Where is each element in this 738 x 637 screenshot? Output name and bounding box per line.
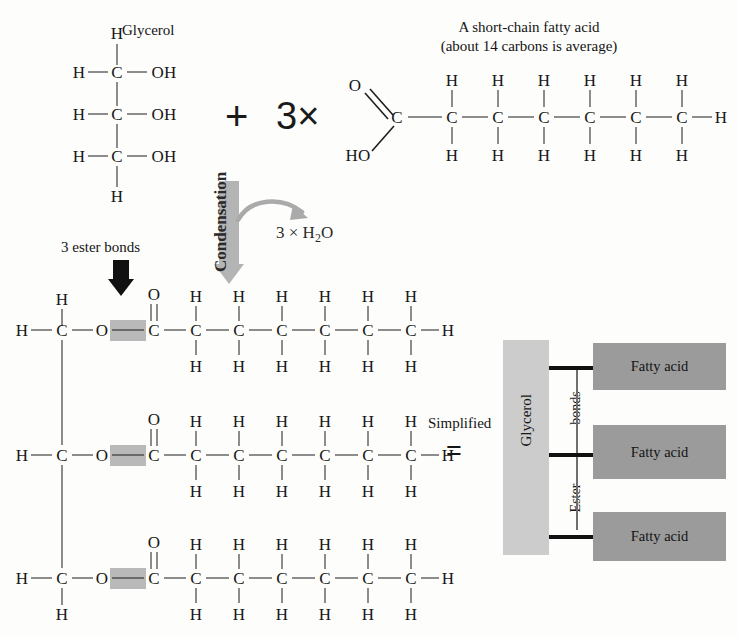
tg1-bond-down-6 [411, 340, 412, 355]
tg2-carbonyl-carbon: C [148, 447, 160, 464]
tg2-lower-h-3: H [276, 483, 288, 500]
tg3-upper-h-5: H [362, 536, 374, 553]
tg2-carbon-2: C [233, 447, 245, 464]
fatty-acid-carbon-2: C [492, 109, 504, 126]
tg1-lower-h-4: H [319, 358, 331, 375]
tg3-carbon-5: C [362, 570, 374, 587]
tg1-bond-down-1 [196, 340, 197, 355]
fatty-acid-title-line1: A short-chain fatty acid [394, 18, 664, 37]
tg3-bond-carbonyl-c1 [164, 578, 186, 579]
tg1-bond-h-c [31, 330, 52, 331]
three-times-operator: 3× [276, 95, 319, 138]
tg1-bond-c5-c6 [378, 330, 401, 331]
fatty-acid-upper-h-2: H [492, 72, 504, 89]
fatty-acid-bond-c3-c4 [554, 117, 580, 118]
tg1-terminal-h: H [442, 322, 454, 339]
fatty-acid-carbon-4: C [584, 109, 596, 126]
tg2-bond-h-c [31, 455, 52, 456]
tg2-bond-up-4 [325, 431, 326, 446]
fatty-acid-lower-h-3: H [538, 147, 550, 164]
tg2-bond-c5-c6 [378, 455, 401, 456]
water-oxygen: O [321, 223, 333, 242]
tg1-upper-h-3: H [276, 288, 288, 305]
tg3-bond-up-5 [368, 554, 369, 569]
simplified-ester-link-2 [549, 453, 594, 457]
fatty-acid-bond-c1-c2 [462, 117, 488, 118]
tg3-carbon-4: C [319, 570, 331, 587]
fatty-acid-bond-up-3 [544, 90, 545, 107]
ester-callout-arrow-head [108, 279, 134, 296]
tg2-bond-terminal [421, 455, 439, 456]
fatty-acid-bond-up-1 [452, 90, 453, 107]
fatty-acid-bond-terminal [692, 117, 712, 118]
glycerol-bond-oh3 [127, 156, 147, 157]
plus-operator: + [225, 94, 248, 139]
tg2-upper-h-2: H [233, 413, 245, 430]
tg3-bond-c5-c6 [378, 578, 401, 579]
water-byproduct-label: 3 × H2O [276, 223, 333, 246]
tg3-lower-h-6: H [405, 606, 417, 623]
fatty-acid-carbon-3: C [538, 109, 550, 126]
glycerol-top-h: H [111, 25, 123, 42]
simplified-glycerol-block [503, 340, 549, 555]
simplified-fatty-acid-label-2: Fatty acid [631, 444, 689, 461]
glycerol-bond-c2-c3 [117, 124, 118, 148]
fatty-acid-bond-up-5 [636, 90, 637, 107]
fatty-acid-bond-down-1 [452, 127, 453, 144]
tg2-bond-down-2 [239, 465, 240, 480]
triglyceride-backbone-bond-2 [62, 465, 63, 568]
fatty-acid-lower-h-2: H [492, 147, 504, 164]
ester-callout-arrow-shaft [113, 260, 129, 281]
tg2-bond-up-5 [368, 431, 369, 446]
glycerol-hydroxyl-3: OH [152, 148, 177, 165]
tg3-carbonyl-dbl-right [157, 552, 158, 569]
tg3-bond-up-3 [282, 554, 283, 569]
tg3-ester-oxygen: O [96, 570, 108, 587]
glycerol-hydroxyl-1: OH [152, 64, 177, 81]
tg1-bond-up-6 [411, 306, 412, 321]
tg2-carbon-4: C [319, 447, 331, 464]
tg3-bond-down-4 [325, 588, 326, 603]
glycerol-carbon-3: C [111, 148, 123, 165]
tg3-carbonyl-dbl-left [151, 552, 152, 569]
tg3-bond-down-1 [196, 588, 197, 603]
simplified-fatty-acid-box-2: Fatty acid [593, 425, 726, 479]
tg3-bond-c3-c4 [292, 578, 315, 579]
glycerol-bond-oh2 [127, 114, 147, 115]
fatty-acid-bond-down-2 [498, 127, 499, 144]
tg1-carbonyl-carbon: C [148, 322, 160, 339]
fatty-acid-carbon-6: C [676, 109, 688, 126]
figure-canvas: Glycerol H H C OH H C OH H C OH H + 3× A… [0, 0, 738, 637]
tg3-upper-h-3: H [276, 536, 288, 553]
tg1-bond-terminal [421, 330, 439, 331]
tg1-bond-down-5 [368, 340, 369, 355]
tg3-bond-down-6 [411, 588, 412, 603]
tg2-carbon-3: C [276, 447, 288, 464]
simplified-fatty-acid-label-3: Fatty acid [631, 528, 689, 545]
tg3-lower-h-3: H [276, 606, 288, 623]
fatty-acid-bond-c5-c6 [646, 117, 672, 118]
simplified-glycerol-label: Glycerol [518, 401, 535, 447]
glycerol-h-3: H [73, 148, 85, 165]
tg2-bond-o-carbonyl [112, 455, 144, 456]
fatty-acid-bond-down-4 [590, 127, 591, 144]
tg2-carbonyl-oxygen: O [148, 411, 160, 428]
glycerol-title: Glycerol [122, 21, 174, 40]
tg3-lower-h-1: H [190, 606, 202, 623]
tg1-bond-up-5 [368, 306, 369, 321]
glycerol-bond-h1 [88, 72, 108, 73]
tg3-lower-h-4: H [319, 606, 331, 623]
tg3-bond-down-5 [368, 588, 369, 603]
tg3-lower-h-2: H [233, 606, 245, 623]
tg1-bond-up-4 [325, 306, 326, 321]
tg3-carbon-1: C [190, 570, 202, 587]
simplified-fatty-acid-label-1: Fatty acid [631, 358, 689, 375]
tg1-bond-c3-c4 [292, 330, 315, 331]
tg2-bond-up-3 [282, 431, 283, 446]
tg2-carbon-1: C [190, 447, 202, 464]
tg2-lower-h-4: H [319, 483, 331, 500]
tg3-bond-c4-c5 [335, 578, 358, 579]
simplified-ester-link-1 [549, 366, 594, 370]
tg3-bond-h-c [31, 578, 52, 579]
fatty-acid-bond-c4-c5 [600, 117, 626, 118]
